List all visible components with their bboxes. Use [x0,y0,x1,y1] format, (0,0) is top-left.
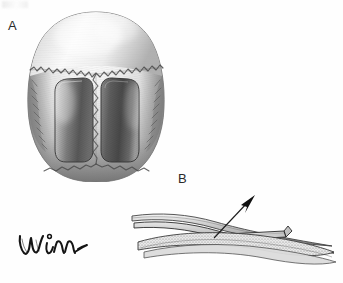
figure-root: A B [0,0,343,283]
panel-a-skull-superior-view [22,10,170,182]
artist-signature [16,226,94,262]
right-parietal-bone-flap [98,74,144,166]
scan-artifact [2,1,28,8]
panel-label-a: A [8,19,17,32]
panel-label-b: B [178,172,187,185]
left-parietal-bone-flap [52,74,98,166]
panel-b-lateral-cross-section [126,190,338,270]
